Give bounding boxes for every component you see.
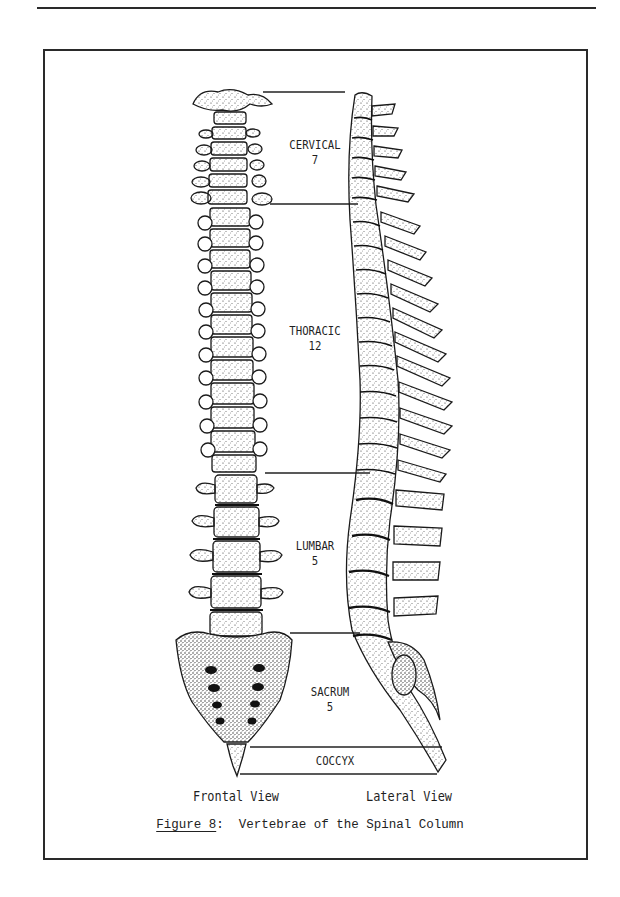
caption-separator: : <box>216 818 224 832</box>
region-label-coccyx: COCCYX <box>298 753 372 768</box>
region-label-cervical: CERVICAL 7 <box>278 137 352 167</box>
region-label-thoracic: THORACIC 12 <box>274 323 356 353</box>
region-count: 12 <box>274 338 356 353</box>
region-count: 7 <box>278 152 352 167</box>
region-label-sacrum: SACRUM 5 <box>297 684 363 714</box>
region-name: CERVICAL <box>289 137 340 152</box>
frontal-view-spine <box>176 90 292 776</box>
region-count: 5 <box>278 553 352 568</box>
lateral-view-spine <box>346 93 452 772</box>
lateral-view-label: Lateral View <box>366 788 452 804</box>
region-name: COCCYX <box>316 753 355 768</box>
frontal-view-label: Frontal View <box>193 788 279 804</box>
figure-number: Figure 8 <box>156 818 216 832</box>
region-count: 5 <box>297 699 363 714</box>
region-name: LUMBAR <box>296 538 335 553</box>
figure-caption: Figure 8: Vertebrae of the Spinal Column <box>0 818 620 832</box>
figure-title: Vertebrae of the Spinal Column <box>239 818 464 832</box>
region-name: SACRUM <box>311 684 350 699</box>
region-name: THORACIC <box>289 323 340 338</box>
region-label-lumbar: LUMBAR 5 <box>278 538 352 568</box>
